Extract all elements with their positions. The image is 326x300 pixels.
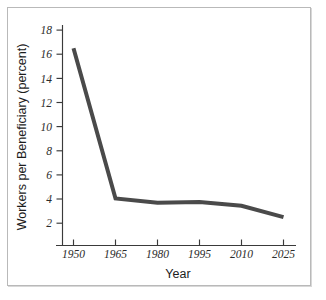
x-tick-label: 1995 — [188, 248, 211, 260]
x-tick-label: 1980 — [146, 248, 169, 260]
x-tick-label: 1965 — [104, 248, 127, 260]
y-tick-label: 10 — [41, 121, 53, 133]
y-tick-label: 8 — [46, 145, 52, 157]
x-axis-ticks — [74, 240, 284, 246]
y-tick-label: 18 — [41, 24, 53, 36]
y-tick-label: 2 — [46, 217, 52, 229]
line-chart-canvas: 18 16 14 12 10 8 6 4 2 1950 1965 1980 19… — [0, 0, 326, 300]
y-tick-label: 14 — [41, 73, 53, 85]
y-tick-label: 6 — [46, 169, 52, 181]
y-tick-label: 12 — [41, 97, 53, 109]
x-axis-title: Year — [165, 267, 190, 281]
chart-figure: 18 16 14 12 10 8 6 4 2 1950 1965 1980 19… — [0, 0, 326, 300]
y-axis-tick-labels: 18 16 14 12 10 8 6 4 2 — [41, 24, 53, 229]
y-axis-ticks — [57, 30, 63, 223]
x-tick-label: 2010 — [230, 248, 253, 260]
y-axis-title: Workers per Beneficiary (percent) — [15, 44, 29, 231]
x-tick-label: 1950 — [62, 248, 85, 260]
y-tick-label: 4 — [46, 193, 52, 205]
x-axis-tick-labels: 1950 1965 1980 1995 2010 2025 — [62, 248, 295, 260]
y-tick-label: 16 — [41, 48, 53, 60]
data-series-line — [74, 48, 284, 217]
x-tick-label: 2025 — [272, 248, 295, 260]
